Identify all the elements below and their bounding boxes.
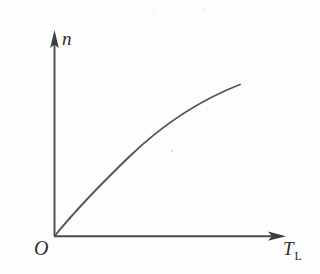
plot-svg: [0, 0, 320, 274]
x-axis-label-subscript: L: [294, 249, 301, 263]
x-axis-label: TL: [283, 238, 302, 264]
scan-speck: [171, 149, 173, 152]
y-axis-label: n: [62, 28, 72, 50]
scan-speck: [203, 9, 206, 11]
curve-n-vs-TL: [55, 85, 240, 236]
x-axis-label-base: T: [283, 238, 294, 259]
origin-label: O: [34, 237, 48, 260]
figure-canvas: n O TL: [0, 0, 320, 274]
scan-speck: [152, 10, 154, 12]
